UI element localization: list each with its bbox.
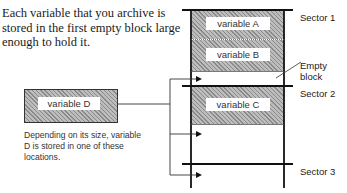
- sector-3-label: Sector 3: [300, 166, 335, 177]
- empty-block-label-line2: block: [300, 71, 327, 82]
- empty-block-label: Empty block: [300, 60, 327, 82]
- note-text: Depending on its size, variable D is sto…: [24, 130, 144, 163]
- sector-2-label: Sector 2: [300, 88, 335, 99]
- empty-block-label-line1: Empty: [300, 60, 327, 71]
- archive-diagram-lines: [0, 0, 347, 193]
- sector-1-label: Sector 1: [300, 12, 335, 23]
